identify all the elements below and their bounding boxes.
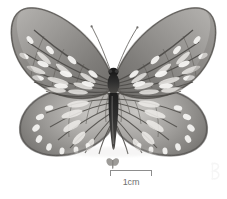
left-eye xyxy=(109,70,112,73)
scale-bar: 1cm xyxy=(110,170,152,188)
scale-bar-line xyxy=(110,170,152,176)
scale-bar-label: 1cm xyxy=(110,177,152,188)
thorax xyxy=(108,74,120,95)
specimen-photo-canvas: 1cm xyxy=(0,0,227,199)
watermark-glyph xyxy=(209,161,221,181)
right-antenna-club xyxy=(136,26,138,28)
right-eye xyxy=(115,70,118,73)
left-antenna-club xyxy=(91,25,93,27)
butterfly-icon xyxy=(106,158,120,170)
